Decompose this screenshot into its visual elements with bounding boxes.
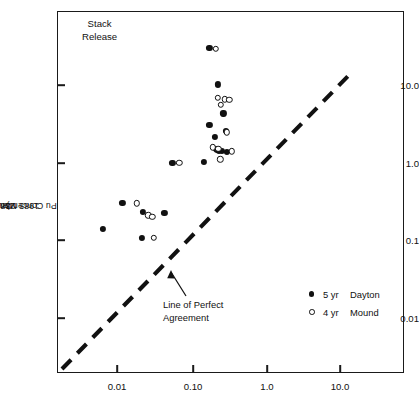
x-tick-mark-1.0 <box>266 365 268 373</box>
stack-release-annotation: Stack Release <box>82 17 117 43</box>
x-tick-label-1.0: 1.0 <box>237 381 297 392</box>
open-circle-icon <box>309 309 323 315</box>
x-tick-label-0.01: 0.01 <box>87 381 147 392</box>
y-axis-title: 1985 Monitored 238Pu Concentration (aCi/… <box>0 0 16 412</box>
y-tick-mark-0.01 <box>57 317 65 319</box>
y-axis-title-post: ) <box>7 201 10 211</box>
y-tick-mark-1 <box>57 162 65 164</box>
y-tick-label-0.1: 0.1 <box>373 235 419 246</box>
stack-release-line1: Stack <box>82 17 117 30</box>
filled-circle-icon <box>309 291 323 296</box>
x-tick-mark-10.0 <box>339 365 341 373</box>
x-tick-mark-0.01 <box>116 365 118 373</box>
legend-mound-site: Mound <box>350 307 379 318</box>
legend-item-dayton: 5 yr Dayton <box>309 285 380 303</box>
legend: 5 yr Dayton 4 yr Mound <box>309 285 380 321</box>
reference-line-label-line1: Line of Perfect <box>163 299 223 312</box>
y-tick-mark-10 <box>57 84 65 86</box>
y-tick-label-0.01: 0.01 <box>373 313 419 324</box>
legend-mound-years: 4 yr <box>323 307 350 318</box>
x-tick-label-0.10: 0.10 <box>163 381 223 392</box>
chart-figure: 1985 Monitored 238Pu Concentration (aCi/… <box>0 0 419 412</box>
y-tick-mark-0.1 <box>57 239 65 241</box>
x-tick-mark-0.10 <box>192 365 194 373</box>
y-tick-label-10: 10.0 <box>373 80 419 91</box>
reference-line-label: Line of Perfect Agreement <box>163 299 223 324</box>
stack-release-line2: Release <box>82 30 117 43</box>
x-tick-label-10.0: 10.0 <box>310 381 370 392</box>
legend-dayton-years: 5 yr <box>323 289 350 300</box>
y-tick-label-1: 1.0 <box>373 158 419 169</box>
legend-dayton-site: Dayton <box>350 289 380 300</box>
reference-line-label-line2: Agreement <box>163 312 223 325</box>
legend-item-mound: 4 yr Mound <box>309 303 380 321</box>
